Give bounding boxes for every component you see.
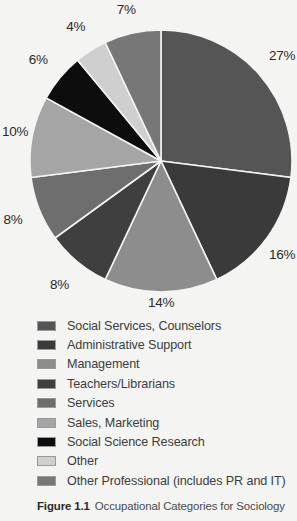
- legend-item[interactable]: Management: [0, 355, 297, 374]
- legend-item-label: Management: [67, 357, 140, 371]
- legend-item[interactable]: Services: [0, 394, 297, 413]
- legend-item-label: Other: [67, 454, 98, 468]
- legend-item-label: Teachers/Librarians: [67, 377, 175, 391]
- pie-slice-percentage: 6%: [29, 52, 48, 67]
- legend-item-label: Administrative Support: [67, 338, 192, 352]
- pie-chart: 27%16%14%8%8%10%6%4%7%: [0, 0, 297, 312]
- legend-item[interactable]: Sales, Marketing: [0, 413, 297, 432]
- legend-swatch-icon: [37, 340, 56, 350]
- legend-swatch-icon: [37, 359, 56, 369]
- pie-slice-percentage: 27%: [269, 48, 295, 63]
- legend-swatch-icon: [37, 418, 56, 428]
- legend-swatch-icon: [37, 456, 56, 466]
- pie-slice-percentage: 8%: [50, 277, 69, 292]
- pie-slice-percentage: 7%: [117, 2, 136, 17]
- legend-item-label: Social Services, Counselors: [67, 319, 221, 333]
- pie-slice-percentage: 14%: [148, 295, 174, 310]
- figure-caption: Figure 1.1Occupational Categories for So…: [37, 500, 297, 512]
- figure-caption-text: Occupational Categories for Sociology: [95, 500, 285, 512]
- pie-slice-percentage: 16%: [269, 247, 295, 262]
- legend-swatch-icon: [37, 379, 56, 389]
- legend-swatch-icon: [37, 476, 56, 486]
- legend-item-label: Sales, Marketing: [67, 416, 159, 430]
- pie-slice-percentage: 8%: [4, 212, 23, 227]
- pie-slice-percentage: 10%: [2, 124, 28, 139]
- legend-swatch-icon: [37, 398, 56, 408]
- legend-item[interactable]: Other: [0, 452, 297, 471]
- legend-item-label: Social Science Research: [67, 435, 205, 449]
- figure-container: 27%16%14%8%8%10%6%4%7% Social Services, …: [0, 0, 297, 521]
- legend-swatch-icon: [37, 437, 56, 447]
- legend-item-label: Other Professional (includes PR and IT): [67, 474, 286, 488]
- legend-item[interactable]: Social Science Research: [0, 432, 297, 451]
- legend-item-label: Services: [67, 396, 115, 410]
- legend-item[interactable]: Teachers/Librarians: [0, 374, 297, 393]
- legend-swatch-icon: [37, 321, 56, 331]
- figure-caption-label: Figure 1.1: [37, 500, 90, 512]
- pie-chart-svg: [0, 0, 297, 312]
- chart-legend: Social Services, CounselorsAdministrativ…: [0, 316, 297, 491]
- pie-slice-percentage: 4%: [66, 19, 85, 34]
- legend-item[interactable]: Other Professional (includes PR and IT): [0, 471, 297, 490]
- legend-item[interactable]: Administrative Support: [0, 335, 297, 354]
- legend-item[interactable]: Social Services, Counselors: [0, 316, 297, 335]
